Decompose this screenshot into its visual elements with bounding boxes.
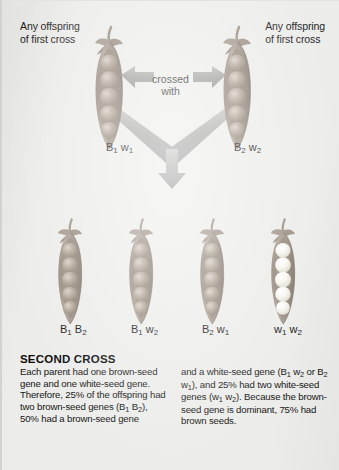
allele-2-subscript: 1: [225, 328, 229, 337]
allele-1-subscript: 1: [113, 146, 117, 155]
text-run: or B: [304, 366, 324, 377]
allele-1-subscript: 2: [209, 328, 213, 337]
pea-pod-offspring-2: [121, 216, 161, 326]
pea-pod-offspring-1: [50, 216, 90, 326]
genotype-label-offspring-2: B1 w2: [131, 323, 158, 335]
genotype-label-offspring-3: B2 w1: [202, 323, 229, 335]
subscript: 1: [219, 395, 223, 404]
text-run: and a white-seed gene (B: [181, 366, 287, 377]
subscript: 2: [138, 405, 142, 414]
allele-1-subscript: 1: [67, 328, 71, 337]
text-run: B: [129, 401, 138, 412]
allele-2-subscript: 2: [82, 328, 86, 337]
text-run: w: [181, 379, 188, 390]
allele-2-subscript: 1: [129, 146, 133, 155]
subscript: 2: [300, 370, 304, 379]
allele-1-subscript: 2: [241, 146, 245, 155]
subscript: 1: [125, 405, 129, 414]
genotype-label-offspring-4: w1 w2: [274, 323, 302, 335]
parent-left-caption: Any offspring of first cross: [20, 20, 80, 45]
caption-column-left: Each parent had one brown-seed gene and …: [20, 366, 167, 427]
parent-right-caption: Any offspring of first cross: [265, 20, 325, 45]
allele-2: w: [217, 323, 225, 335]
allele-2-subscript: 2: [297, 328, 301, 337]
allele-2: w: [146, 323, 154, 335]
genetics-second-cross-figure: Any offspring of first cross Any offspri…: [0, 0, 339, 470]
subscript: 2: [324, 370, 328, 379]
subscript: 1: [188, 383, 192, 392]
genotype-label-parent-right: B2 w2: [234, 141, 261, 153]
caption-block: SECOND CROSS Each parent had one brown-s…: [20, 353, 328, 427]
text-run: w: [291, 366, 300, 377]
section-title: SECOND CROSS: [20, 353, 328, 365]
caption-column-right: and a white-seed gene (B1 w2 or B2 w1), …: [181, 366, 328, 427]
allele-1: w: [274, 323, 282, 335]
subscript: 2: [232, 395, 236, 404]
allele-2: w: [249, 141, 257, 153]
allele-1-subscript: 1: [138, 328, 142, 337]
genotype-label-parent-left: B1 w1: [106, 141, 133, 153]
crossed-with-label: crossed with: [2, 73, 339, 97]
subscript: 1: [287, 370, 291, 379]
text-run: w: [223, 391, 232, 402]
allele-2-subscript: 2: [257, 146, 261, 155]
pea-pod-offspring-4: [263, 216, 303, 326]
allele-2-subscript: 2: [154, 328, 158, 337]
genotype-label-offspring-1: B1 B2: [60, 323, 87, 335]
caption-columns: Each parent had one brown-seed gene and …: [20, 366, 328, 427]
allele-2: w: [121, 141, 129, 153]
pea-pod-offspring-3: [192, 216, 232, 326]
allele-1-subscript: 1: [282, 328, 286, 337]
